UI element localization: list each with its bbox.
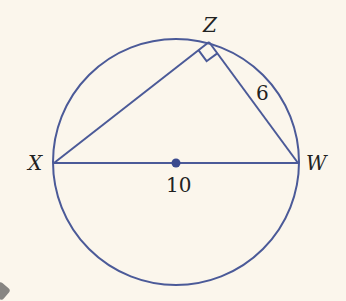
label-w: W (306, 151, 328, 175)
center-point (172, 159, 181, 168)
segment-xz (54, 42, 209, 163)
label-x: X (26, 151, 43, 175)
label-diameter: 10 (166, 173, 191, 197)
label-side-zw: 6 (256, 81, 269, 105)
right-angle-marker (199, 50, 218, 61)
label-z: Z (202, 13, 218, 37)
